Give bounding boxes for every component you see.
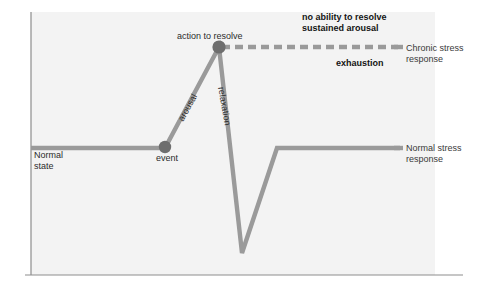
no-ability-to-resolve-label: no ability to resolve sustained arousal (302, 12, 387, 34)
action-to-resolve-marker-dot (212, 40, 225, 53)
diagram-canvas: Normal state event action to resolve no … (0, 0, 491, 290)
normal-state-label: Normal state (34, 150, 63, 172)
action-to-resolve-label: action to resolve (177, 31, 243, 42)
exhaustion-label: exhaustion (336, 58, 384, 69)
event-marker-dot (159, 141, 171, 153)
normal-stress-response-legend-label: Normal stress response (406, 143, 462, 165)
chronic-stress-response-legend-label: Chronic stress response (406, 43, 464, 65)
normal-stress-response-line (31, 47, 400, 253)
event-label: event (156, 153, 178, 164)
